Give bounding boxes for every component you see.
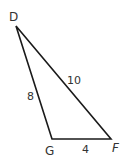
triangle-diagram: D G F 8 10 4 — [0, 0, 127, 160]
vertex-label-g: G — [45, 144, 54, 158]
vertex-label-d: D — [9, 10, 18, 24]
triangle-dgf — [16, 26, 111, 139]
side-label-gf: 4 — [82, 143, 89, 156]
side-label-df: 10 — [67, 74, 81, 87]
vertex-label-f: F — [112, 141, 120, 155]
side-label-dg: 8 — [27, 90, 34, 103]
